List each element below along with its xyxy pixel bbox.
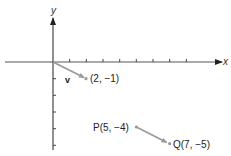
point-P-label: P(5, −4) bbox=[93, 122, 129, 133]
vector-v-label: v bbox=[65, 75, 70, 85]
point-Q-label: Q(7, −5) bbox=[173, 139, 210, 150]
x-axis-label: x bbox=[222, 56, 229, 67]
point-2-neg1 bbox=[84, 77, 87, 80]
point-Q bbox=[168, 142, 171, 145]
vector-PQ bbox=[136, 127, 166, 142]
point-2-neg1-label: (2, −1) bbox=[90, 73, 119, 84]
coordinate-plane: y x v (2, −1) P(5, −4) Q(7, −5) bbox=[0, 0, 231, 156]
y-axis-label: y bbox=[50, 5, 57, 16]
